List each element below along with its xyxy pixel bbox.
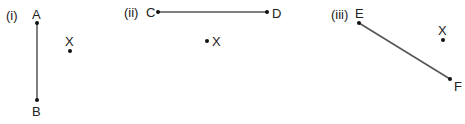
point-f <box>448 77 452 81</box>
label-c: C <box>146 5 155 20</box>
label-e: E <box>355 6 364 21</box>
point-d <box>265 10 269 14</box>
point-b <box>35 98 39 102</box>
panel-i: (i) A B X <box>6 7 74 119</box>
label-x: X <box>438 23 447 38</box>
segment-ef <box>359 23 450 79</box>
point-x <box>205 39 209 43</box>
diagram: (i) A B X (ii) C D X (iii) E F X <box>0 0 465 124</box>
panel-iii: (iii) E F X <box>331 6 462 94</box>
point-c <box>156 10 160 14</box>
label-d: D <box>272 6 281 21</box>
point-e <box>357 21 361 25</box>
label-b: B <box>32 104 41 119</box>
point-x <box>68 49 72 53</box>
panel-label: (i) <box>6 8 18 23</box>
panel-label: (iii) <box>331 7 348 22</box>
label-x: X <box>212 34 221 49</box>
point-x <box>441 38 445 42</box>
panel-ii: (ii) C D X <box>124 5 281 49</box>
label-a: A <box>32 7 41 22</box>
label-f: F <box>454 79 462 94</box>
label-x: X <box>65 34 74 49</box>
panel-label: (ii) <box>124 5 138 20</box>
